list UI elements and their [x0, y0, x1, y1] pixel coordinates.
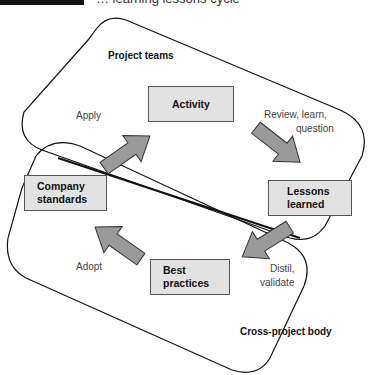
best-line2: practices [163, 277, 209, 290]
activity-label: Activity [172, 98, 210, 111]
review-label: Review, learn, question [264, 108, 334, 136]
company-line1: Company [37, 180, 87, 193]
distil-line2: validate [258, 276, 294, 290]
distil-line1: Distil, [258, 262, 294, 276]
apply-label: Apply [76, 109, 101, 123]
adopt-label: Adopt [76, 260, 102, 274]
lessons-line1: Lessons [287, 185, 330, 198]
project-teams-title: Project teams [108, 50, 174, 61]
company-standards-box: Company standards [24, 175, 107, 211]
best-line1: Best [163, 264, 209, 277]
cross-project-title: Cross-project body [240, 326, 332, 337]
distil-label: Distil, validate [258, 262, 294, 290]
review-line1: Review, learn, [264, 108, 334, 122]
company-line2: standards [37, 193, 87, 206]
review-line2: question [264, 122, 334, 136]
best-practices-box: Best practices [150, 259, 230, 295]
lessons-learned-box: Lessons learned [268, 180, 352, 216]
lessons-line2: learned [287, 198, 330, 211]
activity-box: Activity [148, 86, 234, 122]
